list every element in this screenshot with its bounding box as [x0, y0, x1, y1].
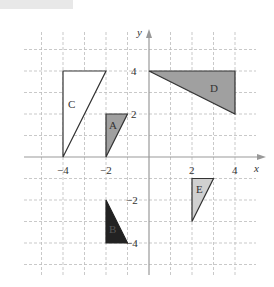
y-tick-2: 2 — [131, 108, 137, 120]
label-c: C — [68, 98, 75, 110]
label-d: D — [210, 82, 218, 94]
x-axis-arrow-icon — [257, 154, 266, 160]
x-tick-4: 4 — [232, 164, 238, 176]
coordinate-grid: C A D B E x y −4 −2 2 4 4 2 −2 −4 — [0, 0, 274, 287]
label-a: A — [109, 119, 117, 131]
x-axis-label: x — [253, 162, 259, 174]
gridlines — [24, 32, 256, 275]
x-tick-neg4: −4 — [57, 164, 69, 176]
y-tick-neg4: −4 — [126, 237, 138, 249]
x-tick-2: 2 — [189, 164, 195, 176]
label-e: E — [196, 183, 203, 195]
y-axis-arrow-icon — [146, 29, 152, 38]
label-b: B — [109, 223, 116, 235]
y-tick-4: 4 — [131, 65, 137, 77]
x-tick-neg2: −2 — [100, 164, 112, 176]
y-tick-neg2: −2 — [126, 194, 138, 206]
y-axis-label: y — [136, 26, 142, 38]
